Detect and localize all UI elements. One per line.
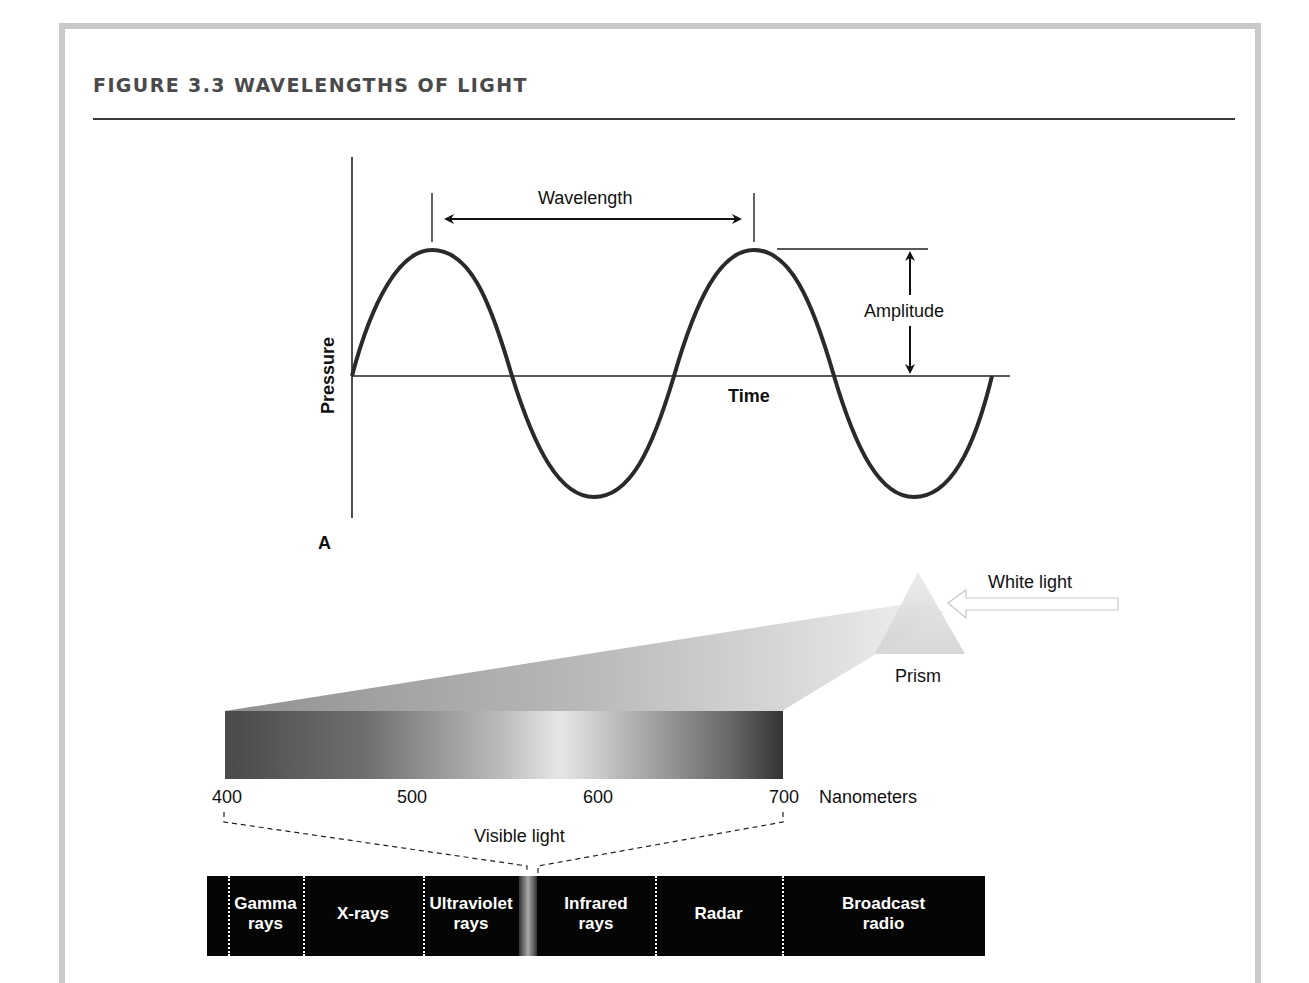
visible-spectrum-bar [225,711,783,779]
white-light-arrow-icon [948,590,1118,618]
panel-a-label: A [318,533,331,554]
band-gamma-rays: Gammarays [228,876,303,952]
visible-light-label: Visible light [474,826,565,847]
y-axis-label: Pressure [318,337,339,414]
sine-wave [352,250,992,497]
band-radar: Radar [655,876,782,952]
em-spectrum-band: Gammarays X-rays Ultravioletrays Infrare… [207,876,985,956]
scale-tick-600: 600 [583,787,613,808]
scale-tick-700: 700 [769,787,799,808]
band-broadcast-radio: Broadcastradio [782,876,985,952]
wavelength-label: Wavelength [538,188,632,209]
x-axis-label: Time [728,386,770,407]
axes [352,157,1010,518]
scale-unit-label: Nanometers [819,787,917,808]
band-ultraviolet-rays: Ultravioletrays [423,876,519,952]
prism-label: Prism [895,666,941,687]
band-x-rays: X-rays [303,876,423,952]
amplitude-label: Amplitude [864,301,944,322]
white-light-label: White light [988,572,1072,593]
light-beam [225,602,945,711]
scale-tick-500: 500 [397,787,427,808]
scale-tick-400: 400 [212,787,242,808]
band-infrared-rays: Infraredrays [537,876,655,952]
visible-light-slice [519,876,537,956]
